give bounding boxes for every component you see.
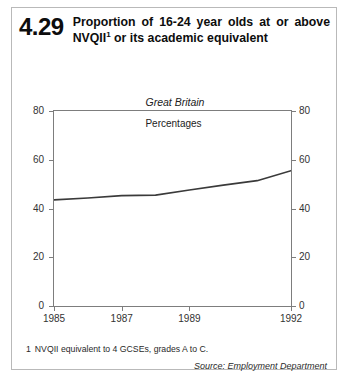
y-axis-tick-right xyxy=(292,111,296,112)
y-axis-label-right: 20 xyxy=(299,251,329,262)
x-axis-label: 1989 xyxy=(169,313,209,324)
x-axis-tick xyxy=(122,307,123,311)
figure-title-line-1: Proportion of 16-24 year olds at or xyxy=(73,15,289,29)
y-axis-label-left: 60 xyxy=(14,154,44,165)
y-axis-tick-left xyxy=(49,209,53,210)
x-axis-label: 1992 xyxy=(271,313,311,324)
y-axis-label-right: 0 xyxy=(299,300,329,311)
footnote: 1NVQII equivalent to 4 GCSEs, grades A t… xyxy=(26,344,208,354)
y-axis-tick-right xyxy=(292,257,296,258)
x-axis-label: 1987 xyxy=(102,313,142,324)
x-axis-tick xyxy=(189,307,190,311)
y-axis-tick-right xyxy=(292,160,296,161)
y-axis-tick-left xyxy=(49,111,53,112)
y-axis-label-left: 20 xyxy=(14,251,44,262)
footnote-marker: 1 xyxy=(26,344,31,354)
footnote-text: NVQII equivalent to 4 GCSEs, grades A to… xyxy=(35,344,208,354)
region-label: Great Britain xyxy=(12,96,338,108)
y-axis-label-left: 0 xyxy=(14,300,44,311)
y-axis-tick-left xyxy=(49,160,53,161)
series-line-chart xyxy=(54,111,291,306)
figure-title: Proportion of 16-24 year olds at or abov… xyxy=(73,14,330,46)
x-axis-tick xyxy=(291,307,292,311)
figure-header: 4.29 Proportion of 16-24 year olds at or… xyxy=(12,8,338,46)
y-axis-label-left: 80 xyxy=(14,105,44,116)
figure-title-line-3: equivalent xyxy=(207,31,268,45)
figure-number: 4.29 xyxy=(19,14,73,39)
figure-card: 4.29 Proportion of 16-24 year olds at or… xyxy=(11,7,337,370)
plot-area: Percentages xyxy=(53,110,292,307)
x-axis-tick xyxy=(54,307,55,311)
figure-title-line-2-post: or its academic xyxy=(111,31,204,45)
y-axis-label-right: 40 xyxy=(299,203,329,214)
y-axis-tick-left xyxy=(49,257,53,258)
y-axis-tick-right xyxy=(292,209,296,210)
y-axis-label-left: 40 xyxy=(14,203,44,214)
source-attribution: Source: Employment Department xyxy=(194,361,327,371)
data-series-line xyxy=(54,171,291,200)
y-axis-label-right: 80 xyxy=(299,105,329,116)
x-axis-label: 1985 xyxy=(34,313,74,324)
y-axis-label-right: 60 xyxy=(299,154,329,165)
y-axis-tick-right xyxy=(292,306,296,307)
y-axis-tick-left xyxy=(49,306,53,307)
